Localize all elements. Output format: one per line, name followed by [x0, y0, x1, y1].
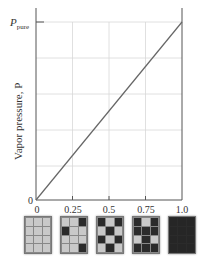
solvent-cell	[79, 227, 86, 235]
solute-cell	[98, 218, 105, 226]
solvent-cell	[151, 236, 158, 244]
solvent-cell	[34, 244, 41, 252]
solute-cell	[151, 218, 158, 226]
solute-cell	[98, 236, 105, 244]
solute-cell	[187, 227, 194, 235]
solvent-cell	[43, 227, 50, 235]
solute-cell	[170, 236, 177, 244]
y-zero-label: 0	[28, 195, 33, 206]
tile-075	[132, 216, 160, 254]
solvent-cell	[70, 218, 77, 226]
solvent-cell	[26, 227, 33, 235]
solvent-cell	[43, 244, 50, 252]
solute-cell	[134, 218, 141, 226]
x-tick-1: 1.0	[176, 204, 189, 215]
solvent-cell	[98, 244, 105, 252]
solute-cell	[142, 244, 149, 252]
y-top-label: Ppure	[9, 16, 29, 31]
solvent-cell	[98, 227, 105, 235]
x-tick-labels: 0 0.25 0.5 0.75 1.0	[35, 204, 189, 215]
solvent-cell	[43, 218, 50, 226]
solute-cell	[187, 244, 194, 252]
solute-cell	[115, 236, 122, 244]
solute-cell	[151, 227, 158, 235]
solute-cell	[79, 218, 86, 226]
solvent-cell	[62, 244, 69, 252]
tile-025	[60, 216, 88, 254]
solvent-cell	[142, 218, 149, 226]
x-tick-05: 0.5	[103, 204, 116, 215]
solute-cell	[170, 227, 177, 235]
solute-cell	[62, 227, 69, 235]
solute-cell	[134, 244, 141, 252]
solute-cell	[187, 218, 194, 226]
solvent-cell	[62, 218, 69, 226]
solvent-cell	[34, 227, 41, 235]
solvent-cell	[70, 236, 77, 244]
solvent-cell	[70, 244, 77, 252]
solute-cell	[142, 236, 149, 244]
solute-cell	[178, 244, 185, 252]
tile-1	[168, 216, 196, 254]
solvent-cell	[26, 218, 33, 226]
solute-cell	[142, 227, 149, 235]
solvent-cell	[106, 218, 113, 226]
solute-cell	[178, 227, 185, 235]
solute-cell	[134, 227, 141, 235]
solute-cell	[79, 244, 86, 252]
solvent-cell	[26, 244, 33, 252]
solvent-cell	[115, 244, 122, 252]
solute-cell	[106, 244, 113, 252]
composition-tiles	[22, 216, 201, 258]
vapor-pressure-chart: Ppure Vapor pressure, P 0 0 0.25 0.5 0.7…	[0, 0, 201, 215]
tile-0	[24, 216, 52, 254]
solute-cell	[115, 218, 122, 226]
x-tick-075: 0.75	[137, 204, 155, 215]
solvent-cell	[34, 236, 41, 244]
x-tick-025: 0.25	[64, 204, 82, 215]
solvent-cell	[70, 227, 77, 235]
solvent-cell	[26, 236, 33, 244]
x-tick-0: 0	[35, 204, 40, 215]
solvent-cell	[34, 218, 41, 226]
solute-cell	[170, 244, 177, 252]
solute-cell	[187, 236, 194, 244]
solvent-cell	[43, 236, 50, 244]
solute-cell	[106, 227, 113, 235]
solute-cell	[178, 218, 185, 226]
y-axis-label: Vapor pressure, P	[12, 83, 24, 160]
solvent-cell	[106, 236, 113, 244]
solvent-cell	[115, 227, 122, 235]
solute-cell	[178, 236, 185, 244]
solvent-cell	[62, 236, 69, 244]
solute-cell	[151, 244, 158, 252]
solute-cell	[170, 218, 177, 226]
tile-05	[96, 216, 124, 254]
solvent-cell	[79, 236, 86, 244]
solvent-cell	[134, 236, 141, 244]
